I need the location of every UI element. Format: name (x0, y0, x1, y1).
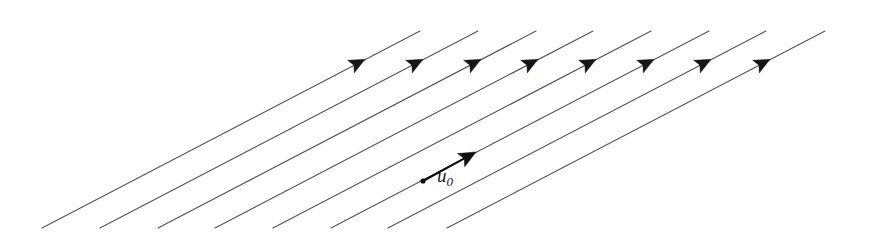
field-arrowhead-icon (694, 59, 712, 73)
u0-label-subscript: 0 (447, 174, 454, 189)
u0-label-symbol: u (437, 165, 447, 186)
u0-vector-base-point (420, 178, 425, 183)
vector-field-figure: u0 (0, 0, 871, 249)
field-arrowhead-icon (579, 59, 597, 73)
vector-field-canvas (0, 0, 871, 249)
field-arrowhead-icon (521, 59, 539, 73)
field-arrowhead-icon (753, 59, 771, 73)
u0-vector-arrowhead-icon (457, 152, 476, 167)
u0-vector-label: u0 (437, 166, 453, 188)
field-arrowhead-icon (348, 59, 366, 73)
field-arrowhead-icon (406, 59, 424, 73)
field-arrowhead-icon (464, 59, 482, 73)
field-arrowhead-icon (637, 59, 655, 73)
